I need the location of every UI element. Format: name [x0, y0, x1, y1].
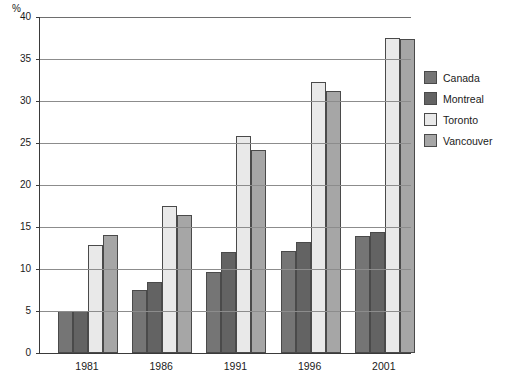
y-tick-mark-25 [36, 143, 40, 144]
y-tick-label-15: 15 [5, 222, 31, 232]
y-tick-label-35: 35 [5, 54, 31, 64]
legend-item-montreal[interactable]: Montreal [424, 89, 507, 108]
bar-toronto-1991 [236, 136, 251, 353]
legend-label-toronto: Toronto [443, 114, 478, 126]
gridline-5 [40, 311, 411, 312]
y-tick-mark-5 [36, 311, 40, 312]
bar-montreal-2001 [370, 232, 385, 353]
bar-vancouver-1986 [177, 215, 192, 353]
bar-vancouver-1981 [103, 235, 118, 353]
gridline-25 [40, 143, 411, 144]
gridline-15 [40, 227, 411, 228]
y-tick-mark-0 [36, 353, 40, 354]
legend-item-toronto[interactable]: Toronto [424, 110, 507, 129]
x-tick-label-1986: 1986 [131, 361, 191, 372]
x-tick-label-1991: 1991 [205, 361, 265, 372]
bar-toronto-1996 [311, 82, 326, 353]
y-tick-mark-15 [36, 227, 40, 228]
bar-canada-1991 [206, 272, 221, 353]
bar-canada-2001 [355, 236, 370, 353]
y-tick-mark-30 [36, 101, 40, 102]
chart-legend: CanadaMontrealTorontoVancouver [424, 68, 507, 152]
gridline-20 [40, 185, 411, 186]
bar-canada-1981 [58, 311, 73, 353]
legend-swatch-toronto [424, 113, 437, 126]
legend-swatch-vancouver [424, 134, 437, 147]
x-tick-label-1996: 1996 [280, 361, 340, 372]
bar-canada-1996 [281, 251, 296, 353]
y-tick-label-0: 0 [5, 348, 31, 358]
bar-vancouver-1996 [326, 91, 341, 353]
legend-label-canada: Canada [443, 72, 480, 84]
y-tick-mark-10 [36, 269, 40, 270]
bar-montreal-1991 [221, 252, 236, 353]
y-tick-label-20: 20 [5, 180, 31, 190]
y-tick-label-30: 30 [5, 96, 31, 106]
plot-area [39, 17, 411, 354]
x-tick-label-2001: 2001 [354, 361, 414, 372]
gridline-10 [40, 269, 411, 270]
bar-vancouver-2001 [400, 39, 415, 353]
legend-swatch-montreal [424, 92, 437, 105]
y-tick-mark-20 [36, 185, 40, 186]
legend-swatch-canada [424, 71, 437, 84]
bar-chart: % CanadaMontrealTorontoVancouver 0510152… [0, 0, 507, 387]
legend-label-vancouver: Vancouver [443, 135, 492, 147]
gridline-30 [40, 101, 411, 102]
x-tick-label-1981: 1981 [57, 361, 117, 372]
y-tick-label-10: 10 [5, 264, 31, 274]
y-tick-label-40: 40 [5, 12, 31, 22]
bar-toronto-1981 [88, 245, 103, 353]
bar-montreal-1981 [73, 311, 88, 353]
y-tick-mark-40 [36, 17, 40, 18]
bar-vancouver-1991 [251, 150, 266, 353]
footnote-text [352, 379, 507, 387]
legend-label-montreal: Montreal [443, 93, 484, 105]
bar-canada-1986 [132, 290, 147, 353]
y-tick-mark-35 [36, 59, 40, 60]
legend-item-vancouver[interactable]: Vancouver [424, 131, 507, 150]
legend-item-canada[interactable]: Canada [424, 68, 507, 87]
bar-toronto-1986 [162, 206, 177, 353]
gridline-35 [40, 59, 411, 60]
gridline-40 [40, 17, 411, 18]
y-tick-label-5: 5 [5, 306, 31, 316]
bar-toronto-2001 [385, 38, 400, 353]
bar-montreal-1986 [147, 282, 162, 353]
bar-montreal-1996 [296, 242, 311, 353]
y-tick-label-25: 25 [5, 138, 31, 148]
